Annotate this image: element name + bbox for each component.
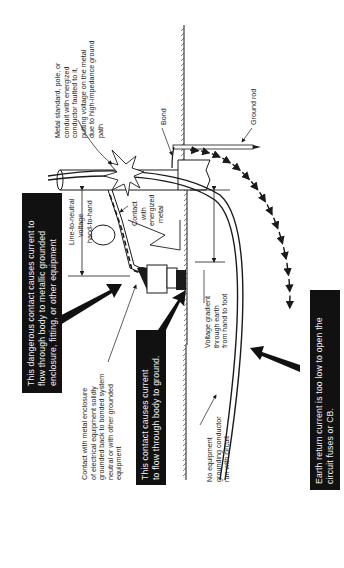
- enclosure-line-5: equipment: [114, 446, 123, 480]
- earth-current-arrow: [284, 247, 286, 259]
- electrical-shock-diagram: This dangerous contact causes current to…: [0, 0, 344, 568]
- fault-spark-icon: [104, 150, 144, 196]
- box-contact-ground: This contact causes current to flow thro…: [136, 330, 166, 485]
- earth-current-arrow: [233, 164, 240, 170]
- equipment-enclosure: [137, 265, 186, 293]
- earth-current-arrow: [274, 218, 278, 229]
- box-dangerous-contact: This dangerous contact causes current to…: [22, 193, 62, 393]
- label-metal-standard: Metal standard, pole, or conduit with en…: [53, 40, 105, 138]
- earth-current-arrow: [222, 158, 230, 163]
- box-contact-line-2: to flow through body to ground.: [151, 355, 161, 480]
- earth-current-arrow: [212, 154, 220, 157]
- earth-current-arrow: [242, 172, 249, 179]
- earth-current-arrow: [287, 263, 289, 275]
- label-hand-to-hand: hand-to-hand: [85, 200, 94, 243]
- label-bond: Bond: [159, 108, 168, 125]
- earth-current-arrow: [251, 182, 257, 190]
- box-earth-return: Earth return current is too low to open …: [310, 290, 340, 490]
- earth-current-arrow: [279, 232, 282, 243]
- earth-current-arrow: [289, 279, 290, 291]
- metal-standard-line-6: path: [96, 124, 105, 138]
- bond-wire: [172, 147, 174, 168]
- pointer-arrow-earth: [250, 346, 300, 372]
- box-earth-line-1: Earth return current is too low to open …: [314, 317, 324, 484]
- ground-rod-text: Ground rod: [249, 89, 258, 125]
- label-contact-enclosure: Contact with metal enclosure of electric…: [80, 374, 123, 480]
- contact-energized-line-4: metal: [156, 205, 165, 223]
- box-dangerous-line-2: flow through body to metallic grounded: [37, 231, 47, 386]
- no-egc-line-3: run with circuit: [222, 436, 231, 482]
- earth-current-arrow: [260, 192, 266, 201]
- ground-rod: [173, 128, 261, 149]
- label-ground-rod: Ground rod: [249, 89, 258, 125]
- gradient-dimension: [190, 190, 230, 262]
- box-dangerous-line-3: enclosure, fitting, or other equipment: [48, 238, 58, 386]
- label-voltage-gradient: Voltage gradient through earth from hand…: [203, 294, 229, 348]
- box-earth-line-2: circuit fuses or CB.: [325, 408, 335, 484]
- label-contact-energized: Contact with energized metal: [130, 194, 165, 226]
- box-dangerous-line-1: This dangerous contact causes current to: [26, 220, 36, 386]
- hand-to-hand-text: hand-to-hand: [85, 200, 94, 243]
- metal-standard-line-5: due to high-impedance ground: [87, 40, 96, 138]
- bond-text: Bond: [159, 108, 168, 125]
- earth-current-arrow: [201, 151, 209, 153]
- earth-current-arrow: [190, 150, 198, 151]
- box-contact-line-1: This contact causes current: [140, 369, 150, 480]
- gradient-line-3: from hand to foot: [220, 294, 229, 348]
- ltn-line-2: voltage: [76, 214, 85, 237]
- earth-current-arrow: [267, 204, 272, 214]
- ground-surface: [181, 25, 187, 480]
